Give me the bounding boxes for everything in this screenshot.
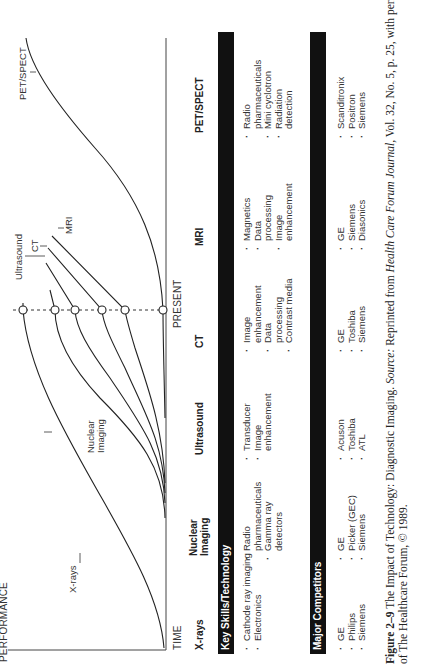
- figure-caption: Figure 2–9 The Impact of Technology: Dia…: [384, 0, 410, 664]
- curve-mri: [52, 236, 165, 483]
- curve-nuclear: [50, 290, 165, 518]
- label-petspect: PET/SPECT: [18, 47, 28, 100]
- x-axis-label: TIME: [172, 625, 183, 650]
- competitors-ct: GE Toshiba Siemens: [336, 306, 368, 352]
- technology-s-curve-chart: [0, 0, 215, 668]
- skills-mri: Magnetics Data processing Image enhancem…: [242, 183, 295, 250]
- competitors-petspect: Scanditronix Positron Siemens: [336, 77, 368, 138]
- major-competitors-title: Major Competitors: [312, 562, 323, 650]
- col-head-petspect: PET/SPECT: [194, 77, 205, 133]
- figure-number: Figure 2–9: [384, 612, 396, 665]
- competitors-nuclear: GE Picker (GEC) Siemens: [336, 495, 368, 560]
- curve-ct: [48, 248, 165, 493]
- skills-ct: Image enhancement Data processing Contra…: [242, 279, 295, 352]
- key-skills-title: Key Skills/Technology: [220, 545, 231, 650]
- col-head-nuclear-1: Nuclear: [188, 519, 199, 556]
- present-label: PRESENT: [172, 279, 183, 328]
- skills-nuclear: Radio pharmaceuticals Gamma ray detector…: [242, 482, 284, 560]
- journal-title: Health Care Forum Journal,: [384, 140, 396, 272]
- col-head-xrays: X-rays: [194, 619, 205, 650]
- curve-petspect: [26, 38, 165, 418]
- label-mri: MRI: [64, 217, 74, 234]
- competitors-ultrasound: Acuson Toshiba ATL: [336, 418, 368, 460]
- col-head-mri: MRI: [194, 228, 205, 246]
- label-nuclear-2: Imaging: [96, 419, 106, 453]
- competitors-xrays: GE Philips Siemens: [336, 604, 368, 650]
- col-head-ct: CT: [194, 335, 205, 348]
- col-head-nuclear-2: Imaging: [199, 518, 210, 556]
- label-ultrasound: Ultrasound: [14, 234, 24, 280]
- skills-petspect: Radio pharmaceuticals Mini cyclotron Rad…: [242, 60, 295, 138]
- major-competitors-band: Major Competitors: [310, 32, 326, 654]
- col-head-ultrasound: Ultrasound: [194, 402, 205, 455]
- label-ct: CT: [30, 239, 40, 252]
- competitors-mri: GE Siemens Diasonics: [336, 200, 368, 250]
- rotated-figure: PERFORMANCE TIME PRESENT X-rays Nuclear …: [0, 0, 421, 668]
- skills-xrays: Cathode ray imaging Electronics: [242, 553, 263, 650]
- label-xrays: X-rays: [68, 566, 78, 593]
- key-skills-band: Key Skills/Technology: [218, 32, 234, 654]
- caption-line-2: of The Healthcare Forum, © 1989.: [397, 0, 410, 664]
- y-axis-label: PERFORMANCE: [0, 582, 9, 662]
- skills-ultrasound: Transducer Image enhancement: [242, 393, 274, 460]
- curve-ultrasound: [46, 263, 165, 503]
